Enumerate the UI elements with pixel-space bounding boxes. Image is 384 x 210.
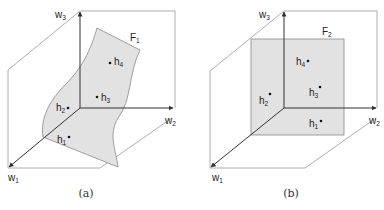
point-h4 xyxy=(109,62,112,65)
surface-label-f1: F1 xyxy=(130,32,140,44)
point-h2 xyxy=(67,107,70,110)
point-h4 xyxy=(307,60,310,63)
axis-label-w1: w1 xyxy=(7,172,19,184)
surface-f1 xyxy=(42,28,140,167)
axis-label-w3: w3 xyxy=(54,9,66,21)
axis-label-w2: w2 xyxy=(368,115,380,127)
caption-a: (a) xyxy=(78,187,93,200)
surface-label-f2: F2 xyxy=(322,26,332,38)
axis-w1 xyxy=(211,108,284,167)
figure-canvas: w3 w2 w1 F1 h4 h3 h2 h1 (a) w3 w2 w1 F2 xyxy=(0,0,384,210)
caption-b: (b) xyxy=(283,187,299,200)
axis-label-w3: w3 xyxy=(258,9,270,21)
surface-f2 xyxy=(251,39,344,135)
point-h3 xyxy=(96,96,99,99)
panel-b: w3 w2 w1 F2 h4 h3 h2 h1 (b) xyxy=(210,9,380,200)
axis-label-w1: w1 xyxy=(211,172,223,184)
point-h1 xyxy=(68,136,71,139)
axis-label-w2: w2 xyxy=(164,115,176,127)
panel-a: w3 w2 w1 F1 h4 h3 h2 h1 (a) xyxy=(7,9,176,200)
point-h3 xyxy=(319,86,322,89)
point-h2 xyxy=(269,93,272,96)
point-h1 xyxy=(320,120,323,123)
